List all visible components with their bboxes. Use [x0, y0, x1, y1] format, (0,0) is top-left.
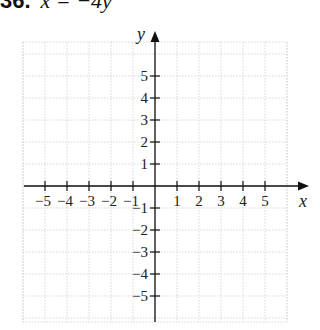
coordinate-plane: −5−4−3−2−112345−5−4−3−2−112345xy: [0, 0, 320, 330]
x-tick-label: −4: [57, 193, 73, 209]
y-tick-label: 3: [141, 112, 149, 128]
y-tick-label: −4: [132, 266, 148, 282]
y-axis-arrow-icon: [151, 31, 160, 42]
y-tick-label: −3: [132, 244, 148, 260]
x-axis-label: x: [298, 191, 307, 211]
x-tick-label: −2: [101, 193, 117, 209]
y-tick-label: −2: [132, 222, 148, 238]
y-tick-label: −5: [132, 288, 148, 304]
x-tick-label: 5: [261, 193, 269, 209]
x-tick-label: −5: [35, 193, 51, 209]
x-axis-arrow-icon: [298, 182, 309, 191]
x-tick-label: −3: [79, 193, 95, 209]
y-tick-label: 1: [141, 156, 149, 172]
y-tick-label: 5: [141, 68, 149, 84]
x-tick-label: 1: [173, 193, 181, 209]
y-tick-label: 2: [141, 134, 149, 150]
x-tick-label: 2: [195, 193, 203, 209]
y-tick-label: −1: [132, 200, 148, 216]
x-tick-label: 4: [239, 193, 247, 209]
y-tick-label: 4: [141, 90, 149, 106]
y-axis-label: y: [135, 24, 145, 44]
x-tick-label: 3: [217, 193, 225, 209]
